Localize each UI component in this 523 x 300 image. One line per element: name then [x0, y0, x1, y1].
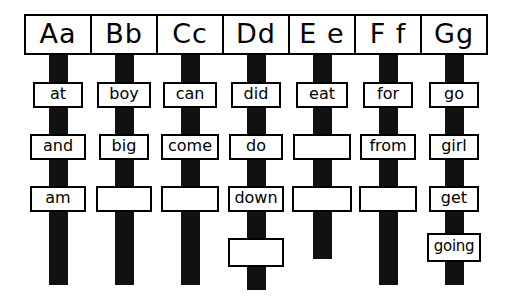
- word-label: from: [369, 138, 406, 154]
- word-box-filled[interactable]: down: [228, 186, 284, 212]
- word-label: at: [50, 86, 66, 102]
- word-box-filled[interactable]: going: [427, 233, 481, 262]
- word-box-filled[interactable]: girl: [429, 134, 479, 160]
- word-label: am: [45, 190, 70, 206]
- word-box-filled[interactable]: do: [229, 134, 283, 160]
- word-label: for: [377, 86, 399, 102]
- word-label: and: [43, 138, 73, 154]
- word-label: did: [244, 86, 269, 102]
- letter-header-cc[interactable]: Cc: [156, 14, 224, 55]
- word-label: go: [444, 86, 464, 102]
- letter-header-label: Cc: [172, 20, 208, 47]
- word-label: boy: [109, 86, 138, 102]
- letter-header-label: Dd: [236, 20, 276, 47]
- letter-header-label: E e: [299, 20, 344, 47]
- word-label: down: [234, 190, 277, 206]
- letter-header-ee[interactable]: E e: [288, 14, 356, 55]
- word-box-filled[interactable]: big: [99, 134, 149, 160]
- word-box-blank[interactable]: [96, 186, 152, 212]
- word-box-blank[interactable]: [359, 186, 417, 212]
- word-label: going: [434, 239, 474, 254]
- word-box-filled[interactable]: and: [30, 134, 86, 160]
- letter-header-aa[interactable]: Aa: [24, 14, 92, 55]
- letter-header-label: Gg: [434, 20, 474, 47]
- word-label: come: [168, 138, 212, 154]
- word-label: can: [176, 86, 205, 102]
- word-box-blank[interactable]: [228, 238, 284, 267]
- word-box-filled[interactable]: did: [231, 82, 281, 108]
- letter-header-dd[interactable]: Dd: [222, 14, 290, 55]
- word-box-filled[interactable]: at: [33, 82, 83, 108]
- alphabet-word-chart: AaBbCcDdE eF fGg atandamboybigcancomedid…: [0, 0, 523, 300]
- letter-header-bb[interactable]: Bb: [90, 14, 158, 55]
- word-label: get: [441, 190, 467, 206]
- letter-header-gg[interactable]: Gg: [420, 14, 488, 55]
- letter-header-ff[interactable]: F f: [354, 14, 422, 55]
- word-box-filled[interactable]: eat: [296, 82, 348, 108]
- word-box-filled[interactable]: can: [163, 82, 217, 108]
- letter-header-label: Bb: [105, 20, 143, 47]
- word-box-blank[interactable]: [161, 186, 219, 212]
- letter-header-label: Aa: [39, 20, 76, 47]
- word-box-filled[interactable]: come: [161, 134, 219, 160]
- word-box-filled[interactable]: from: [360, 134, 416, 160]
- word-box-filled[interactable]: am: [30, 186, 86, 212]
- word-box-blank[interactable]: [292, 186, 352, 212]
- word-label: do: [246, 138, 266, 154]
- word-label: eat: [309, 86, 335, 102]
- word-box-filled[interactable]: go: [429, 82, 479, 108]
- word-box-filled[interactable]: for: [363, 82, 413, 108]
- word-label: girl: [441, 138, 467, 154]
- letter-header-strip: AaBbCcDdE eF fGg: [24, 14, 488, 55]
- letter-header-label: F f: [370, 20, 407, 47]
- word-label: big: [112, 138, 137, 154]
- word-box-filled[interactable]: get: [429, 186, 479, 212]
- word-box-blank[interactable]: [293, 134, 351, 160]
- word-box-filled[interactable]: boy: [97, 82, 151, 108]
